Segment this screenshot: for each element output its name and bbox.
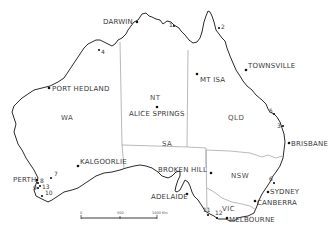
svg-text:MT ISA: MT ISA: [200, 76, 225, 84]
city-sydney: SYDNEY: [267, 188, 300, 196]
site-10: 10: [41, 189, 53, 197]
svg-text:DARWIN: DARWIN: [103, 18, 133, 26]
state-label-qld: QLD: [228, 114, 244, 122]
svg-text:4: 4: [101, 48, 105, 55]
state-label-wa: WA: [61, 114, 73, 122]
site-3: 3: [277, 122, 284, 129]
site-9: 9: [33, 184, 39, 191]
svg-text:11: 11: [203, 206, 211, 213]
svg-text:12: 12: [215, 209, 223, 216]
city-townsville: TOWNSVILLE: [245, 62, 296, 71]
scale-bar: 0 500 1000 Km: [80, 211, 168, 219]
city-adelaide: ADELAIDE: [151, 193, 188, 201]
border-wa-nt: [120, 42, 122, 145]
border-sa-qld: [188, 147, 206, 168]
site-7: 7: [50, 170, 58, 179]
city-port-hedland: PORT HEDLAND: [48, 85, 110, 93]
state-label-nt: NT: [150, 94, 161, 102]
svg-text:7: 7: [54, 170, 58, 177]
border-qld-nsw: [206, 150, 282, 158]
city-mt-isa: MT ISA: [196, 73, 225, 84]
city-broken-hill: BROKEN HILL: [158, 166, 212, 174]
svg-text:6: 6: [269, 175, 273, 182]
svg-text:SYDNEY: SYDNEY: [270, 188, 300, 196]
svg-text:9: 9: [33, 184, 37, 191]
city-brisbane: BRISBANE: [288, 140, 328, 148]
site-4: 4: [98, 48, 105, 55]
city-kalgoorlie: KALGOORLIE: [77, 158, 127, 167]
svg-text:1: 1: [169, 21, 173, 28]
border-nt-sa: [122, 145, 188, 147]
city-canberra: CANBERRA: [254, 199, 297, 207]
city-melbourne: MELBOURNE: [226, 216, 275, 224]
svg-text:ALICE SPRINGS: ALICE SPRINGS: [129, 110, 185, 118]
svg-text:2: 2: [221, 23, 225, 30]
border-sa-nsw-vic: [206, 150, 207, 214]
site-13: 13: [39, 183, 50, 190]
border-nt-qld: [187, 50, 188, 147]
svg-text:5: 5: [269, 107, 273, 114]
svg-text:13: 13: [42, 183, 50, 190]
svg-text:ADELAIDE: ADELAIDE: [151, 193, 188, 201]
map-canvas: DARWIN PORT HEDLAND ALICE SPRINGS MT ISA…: [0, 0, 333, 239]
svg-text:3: 3: [277, 122, 281, 129]
city-perth: PERTH: [13, 176, 38, 184]
scale-tick-500: 500: [117, 211, 124, 215]
site-12: 12: [215, 209, 223, 219]
australia-map: DARWIN PORT HEDLAND ALICE SPRINGS MT ISA…: [0, 0, 333, 239]
site-5: 5: [269, 107, 275, 115]
state-label-nsw: NSW: [231, 172, 249, 180]
scale-tick-1000: 1000 Km: [152, 211, 168, 215]
svg-text:CANBERRA: CANBERRA: [257, 199, 297, 207]
site-11: 11: [203, 206, 211, 216]
svg-text:10: 10: [45, 189, 53, 196]
scale-tick-0: 0: [80, 211, 82, 215]
state-label-vic: VIC: [222, 205, 235, 213]
svg-text:PERTH: PERTH: [13, 176, 37, 184]
svg-text:PORT HEDLAND: PORT HEDLAND: [52, 85, 110, 93]
state-label-sa: SA: [162, 140, 172, 148]
svg-text:BRISBANE: BRISBANE: [291, 140, 328, 148]
svg-text:TOWNSVILLE: TOWNSVILLE: [247, 62, 295, 70]
svg-text:BROKEN HILL: BROKEN HILL: [158, 166, 207, 174]
svg-text:KALGOORLIE: KALGOORLIE: [80, 158, 127, 166]
city-darwin: DARWIN: [103, 18, 138, 26]
city-alice-springs: ALICE SPRINGS: [129, 106, 185, 118]
svg-text:MELBOURNE: MELBOURNE: [229, 216, 275, 224]
site-2: 2: [218, 23, 225, 30]
